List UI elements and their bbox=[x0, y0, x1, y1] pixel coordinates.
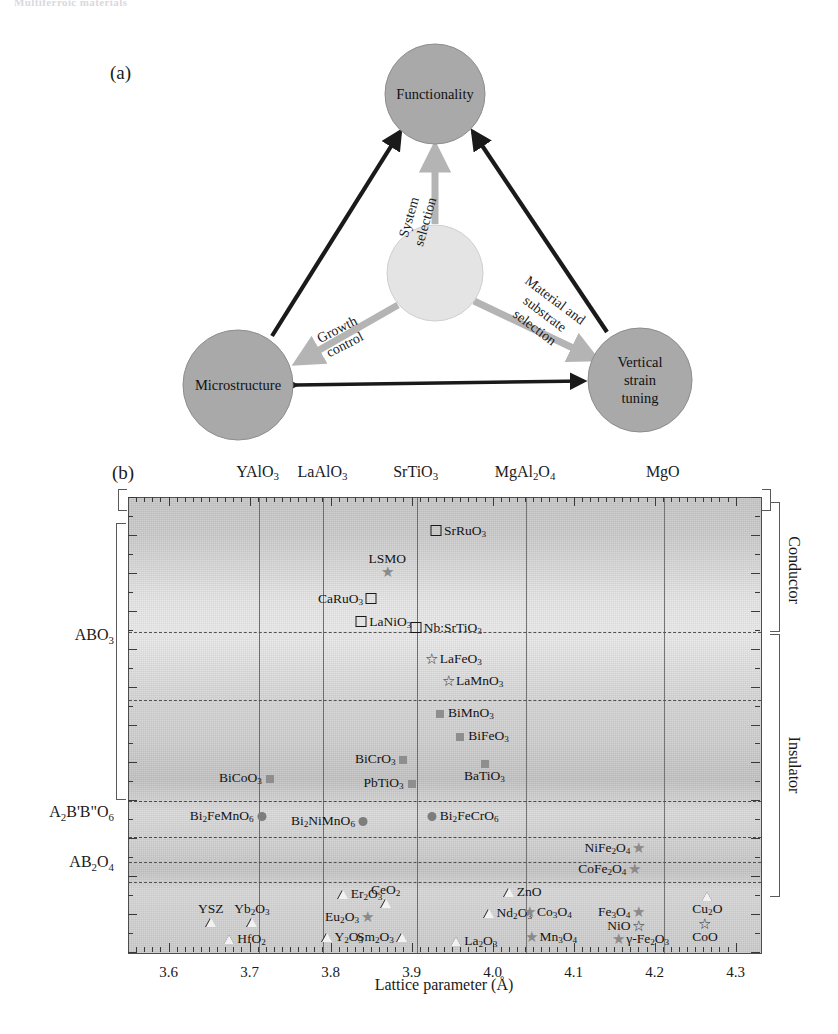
filled-star-marker: ★ bbox=[632, 908, 645, 917]
x-tick-top-3.63 bbox=[193, 497, 194, 502]
data-point-CaRuO3[interactable] bbox=[366, 590, 377, 608]
y-tick-right-24 bbox=[751, 952, 760, 953]
substrate-line-SrTiO3 bbox=[417, 498, 418, 953]
node-vertical-strain-label-line1: Vertical bbox=[617, 354, 662, 370]
x-tick-top-3.94 bbox=[444, 497, 445, 502]
plot-area bbox=[128, 497, 762, 954]
x-tick-bottom-4.27 bbox=[711, 947, 712, 952]
y-tick-left-6 bbox=[128, 611, 137, 612]
data-point-LaNiO3[interactable] bbox=[356, 613, 367, 631]
x-tick-top-3.67 bbox=[225, 497, 226, 502]
data-label-Bi2FeMnO6: Bi2FeMnO6 bbox=[190, 807, 254, 824]
data-point-Y2O3[interactable] bbox=[322, 928, 332, 946]
x-tick-bottom-4.01 bbox=[501, 947, 502, 952]
data-label-BaTiO3: BaTiO3 bbox=[464, 768, 505, 785]
y-tick-right-10 bbox=[751, 687, 760, 688]
x-tick-bottom-3.88 bbox=[395, 947, 396, 952]
data-label-LaNiO3: LaNiO3 bbox=[369, 614, 411, 631]
x-tick-top-3.8 bbox=[331, 497, 332, 506]
data-point-PbTiO3[interactable] bbox=[408, 774, 416, 792]
bracket-conductor bbox=[770, 502, 780, 631]
y-tick-left-12 bbox=[128, 725, 137, 726]
y-tick-right-13 bbox=[755, 743, 760, 744]
x-tick-bottom-3.86 bbox=[379, 947, 380, 952]
data-label-Bi2NiMnO6: Bi2NiMnO6 bbox=[291, 813, 355, 830]
data-point-La2O3[interactable] bbox=[451, 932, 461, 950]
x-tick-bottom-3.58 bbox=[152, 947, 153, 952]
data-point-NiO[interactable]: ☆ bbox=[632, 917, 645, 935]
data-point-HfO2[interactable] bbox=[224, 930, 234, 948]
open-triangle-marker bbox=[484, 909, 494, 918]
node-microstructure-label: Microstructure bbox=[195, 377, 281, 393]
x-tick-top-4.22 bbox=[671, 497, 672, 502]
filled-circle-marker bbox=[257, 812, 266, 821]
x-tick-top-4.12 bbox=[590, 497, 591, 502]
x-tick-top-3.73 bbox=[274, 497, 275, 502]
filled-square-marker bbox=[266, 775, 274, 783]
x-tick-bottom-4.14 bbox=[606, 947, 607, 952]
top-substrate-label-4.04: MgAl2O4 bbox=[495, 463, 556, 482]
row-divider-2 bbox=[129, 801, 761, 802]
x-tick-top-4.21 bbox=[663, 497, 664, 502]
x-tick-label-3.8: 3.8 bbox=[321, 964, 340, 981]
data-point-Sm2O3[interactable] bbox=[397, 928, 407, 946]
open-square-marker bbox=[366, 593, 377, 604]
data-point-LaFeO3[interactable]: ☆ bbox=[425, 650, 438, 668]
open-triangle-marker bbox=[224, 935, 234, 944]
data-point-BiCrO3[interactable] bbox=[399, 750, 407, 768]
data-point-Bi2FeMnO6[interactable] bbox=[257, 807, 266, 825]
x-tick-top-3.99 bbox=[485, 497, 486, 502]
x-tick-top-3.75 bbox=[290, 497, 291, 502]
x-tick-top-3.81 bbox=[339, 497, 340, 502]
y-tick-right-12 bbox=[751, 725, 760, 726]
x-tick-bottom-3.66 bbox=[217, 947, 218, 952]
data-label-BiMnO3: BiMnO3 bbox=[448, 705, 494, 722]
row-divider-4 bbox=[129, 862, 761, 863]
data-point-LaMnO3[interactable]: ☆ bbox=[442, 672, 455, 690]
x-tick-top-4.25 bbox=[695, 497, 696, 502]
x-tick-bottom-3.59 bbox=[160, 947, 161, 952]
open-triangle-marker bbox=[322, 933, 332, 942]
x-tick-bottom-3.93 bbox=[436, 947, 437, 952]
data-point-Co3O4[interactable]: ★ bbox=[523, 903, 536, 921]
data-point-Eu2O3[interactable]: ★ bbox=[361, 908, 374, 926]
y-tick-left-13 bbox=[128, 743, 133, 744]
data-point-Nd2O3[interactable] bbox=[484, 904, 494, 922]
data-point-SrRuO3[interactable] bbox=[430, 522, 441, 540]
data-point-NiFe2O4[interactable]: ★ bbox=[632, 839, 645, 857]
data-label-Bi2FeCrO6: Bi2FeCrO6 bbox=[440, 807, 499, 824]
data-point-BiMnO3[interactable] bbox=[436, 704, 444, 722]
substrate-line-MgO bbox=[664, 498, 665, 953]
x-tick-top-3.86 bbox=[379, 497, 380, 502]
x-tick-top-3.64 bbox=[201, 497, 202, 502]
x-tick-top-3.96 bbox=[460, 497, 461, 502]
data-point-Bi2FeCrO6[interactable] bbox=[427, 807, 436, 825]
data-point-Mn3O4[interactable]: ★ bbox=[525, 928, 538, 946]
data-point-CoFe2O4[interactable]: ★ bbox=[628, 860, 641, 878]
data-point-Bi2NiMnO6[interactable] bbox=[358, 812, 367, 830]
data-point-Er2O3[interactable] bbox=[338, 885, 348, 903]
x-tick-top-3.79 bbox=[322, 497, 323, 502]
y-tick-left-10 bbox=[128, 687, 137, 688]
side-label-Insulator: Insulator bbox=[785, 737, 803, 794]
x-tick-top-3.98 bbox=[476, 497, 477, 502]
data-point-BiCoO3[interactable] bbox=[266, 769, 274, 787]
data-point-BiFeO3[interactable] bbox=[456, 727, 464, 745]
arrow-microstructure-to-functionality bbox=[272, 132, 400, 336]
data-point-Nb:SrTiO3[interactable] bbox=[410, 619, 421, 637]
data-point-ZnO[interactable] bbox=[504, 883, 514, 901]
x-tick-top-3.88 bbox=[395, 497, 396, 502]
x-tick-top-4.06 bbox=[541, 497, 542, 502]
x-tick-top-3.59 bbox=[160, 497, 161, 502]
y-tick-left-21 bbox=[128, 895, 133, 896]
bracket-top-right bbox=[762, 489, 771, 511]
x-tick-bottom-4.05 bbox=[533, 947, 534, 952]
x-tick-top-4.28 bbox=[719, 497, 720, 502]
x-tick-bottom-4.24 bbox=[687, 947, 688, 952]
x-tick-top-4.19 bbox=[647, 497, 648, 502]
x-tick-bottom-3.76 bbox=[298, 947, 299, 952]
y-tick-left-11 bbox=[128, 706, 133, 707]
data-label-CaRuO3: CaRuO3 bbox=[318, 591, 363, 608]
bracket-top-left bbox=[118, 489, 127, 511]
data-label-BiCrO3: BiCrO3 bbox=[355, 750, 396, 767]
